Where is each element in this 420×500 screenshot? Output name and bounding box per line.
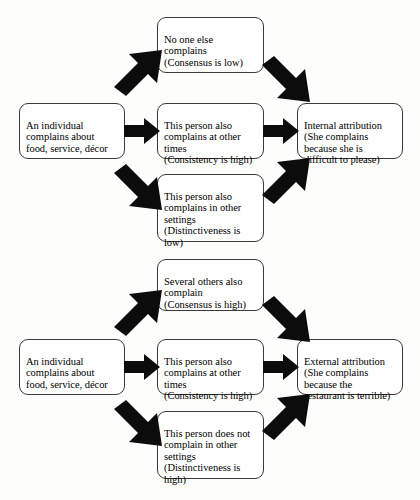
internal-source-box: An individual complains about food, serv… bbox=[19, 103, 125, 159]
external-source-box: An individual complains about food, serv… bbox=[19, 339, 125, 395]
arrow-external-source-to-consistency bbox=[124, 353, 160, 381]
internal-consensus-label: No one else complains (Consensus is low) bbox=[164, 34, 243, 68]
external-distinctiveness-box: This person does not complain in other s… bbox=[157, 411, 264, 479]
external-consensus-box: Several others also complain (Consensus … bbox=[157, 259, 264, 311]
internal-distinctiveness-box: This person also complains in other sett… bbox=[157, 174, 264, 242]
external-source-label: An individual complains about food, serv… bbox=[26, 356, 108, 390]
internal-consistency-label: This person also complains at other time… bbox=[164, 120, 252, 166]
internal-distinctiveness-label: This person also complains in other sett… bbox=[164, 191, 241, 248]
attribution-diagram: An individual complains about food, serv… bbox=[0, 0, 420, 500]
external-outcome-label: External attribution (She complains beca… bbox=[304, 356, 390, 402]
internal-source-label: An individual complains about food, serv… bbox=[26, 120, 108, 154]
external-consensus-label: Several others also complain (Consensus … bbox=[164, 276, 246, 310]
external-consistency-label: This person also complains at other time… bbox=[164, 356, 252, 402]
arrow-internal-consistency-to-outcome bbox=[263, 117, 299, 145]
arrow-internal-consensus-to-outcome bbox=[260, 52, 314, 104]
internal-consistency-box: This person also complains at other time… bbox=[157, 103, 264, 159]
external-consistency-box: This person also complains at other time… bbox=[157, 339, 264, 395]
arrow-internal-source-to-consistency bbox=[124, 117, 160, 145]
external-distinctiveness-label: This person does not complain in other s… bbox=[164, 428, 250, 485]
internal-consensus-box: No one else complains (Consensus is low) bbox=[157, 17, 264, 73]
internal-outcome-label: Internal attribution (She complains beca… bbox=[304, 120, 382, 166]
internal-outcome-box: Internal attribution (She complains beca… bbox=[297, 103, 403, 159]
arrow-external-consistency-to-outcome bbox=[263, 353, 299, 381]
external-outcome-box: External attribution (She complains beca… bbox=[297, 339, 403, 395]
arrow-external-consensus-to-outcome bbox=[260, 292, 314, 344]
